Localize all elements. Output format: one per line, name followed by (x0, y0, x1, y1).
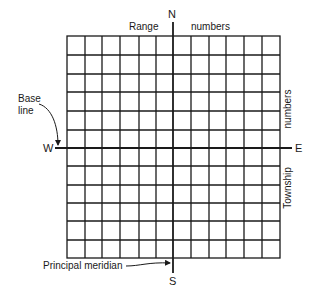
south-label: S (169, 276, 176, 287)
base-line-label-line2: line (18, 106, 34, 116)
township-word-label: Township (283, 164, 293, 212)
base-line-label-line1: Base (18, 94, 41, 104)
range-word-label: Range (129, 22, 158, 32)
east-label: E (295, 143, 302, 154)
west-label: W (43, 143, 53, 154)
principal-meridian-arrow-icon (126, 263, 170, 266)
township-numbers-label: numbers (283, 89, 293, 129)
principal-meridian-label: Principal meridian (43, 261, 122, 271)
north-label: N (168, 9, 176, 20)
base-line-arrow-icon (39, 104, 58, 145)
range-numbers-label: numbers (191, 22, 230, 32)
